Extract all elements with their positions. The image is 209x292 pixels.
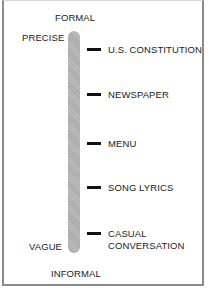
formality-scale-bar [68,31,80,253]
item-label-casual: CASUAL [108,228,147,239]
tick-mark [87,93,101,96]
tick-mark [87,142,101,145]
vague-label: VAGUE [29,241,62,252]
tick-mark [87,48,101,51]
tick-mark [87,186,101,189]
tick-mark [87,232,101,235]
item-label-us-constitution: U.S. CONSTITUTION [108,44,202,55]
item-label-conversation: CONVERSATION [108,240,185,251]
item-label-menu: MENU [108,138,136,149]
item-label-song-lyrics: SONG LYRICS [108,182,173,193]
formal-label: FORMAL [55,12,95,23]
item-label-newspaper: NEWSPAPER [108,89,169,100]
precise-label: PRECISE [22,32,64,43]
informal-label: INFORMAL [51,268,101,279]
